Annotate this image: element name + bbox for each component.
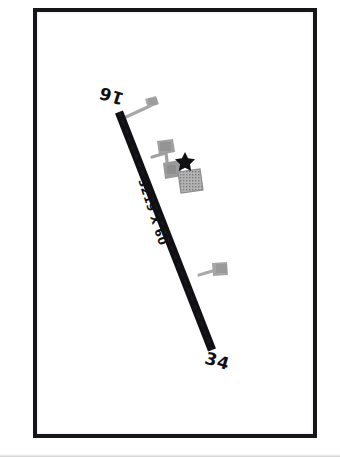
hatched-apron-group <box>178 169 203 193</box>
diagram-vector-layer <box>0 0 340 457</box>
hatched-parking-apron <box>178 169 203 193</box>
taxiway-north-stub <box>126 106 150 117</box>
building-terminal <box>160 142 171 151</box>
building-hangar-c <box>148 98 157 105</box>
building-hangar-b <box>216 264 227 273</box>
building-hangar-a <box>167 165 176 174</box>
airport-diagram-canvas: 16 34 3219 X 60 <box>0 0 340 457</box>
